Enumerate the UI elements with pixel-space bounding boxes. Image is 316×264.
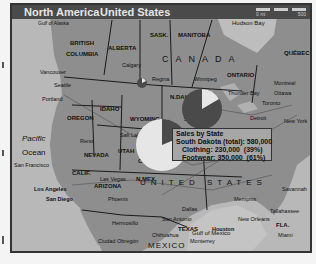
margin-mark bbox=[2, 150, 4, 156]
margin-mark bbox=[2, 62, 4, 68]
svg-text:Winnipeg: Winnipeg bbox=[194, 76, 217, 82]
svg-text:Las Vegas: Las Vegas bbox=[100, 176, 126, 182]
label-sask: SASK. bbox=[150, 32, 169, 38]
margin-mark bbox=[2, 236, 4, 244]
label-ocean: Ocean bbox=[22, 148, 46, 157]
svg-text:Toronto: Toronto bbox=[262, 100, 280, 106]
label-gulf-of-alaska: Gulf of Alaska bbox=[38, 20, 69, 26]
sales-info-tooltip: Sales by State South Dakota (total): 580… bbox=[172, 128, 272, 161]
label-calif: CALIF. bbox=[72, 170, 91, 176]
label-fla: FLA. bbox=[276, 222, 290, 228]
breadcrumb-north-america[interactable]: North America bbox=[24, 6, 99, 18]
label-manitoba: MANITOBA bbox=[178, 32, 211, 38]
svg-text:San Francisco: San Francisco bbox=[14, 162, 49, 168]
tooltip-title: Sales by State bbox=[176, 130, 268, 138]
svg-text:Miami: Miami bbox=[278, 232, 293, 238]
svg-text:Reno: Reno bbox=[80, 138, 93, 144]
svg-text:Tallahassee: Tallahassee bbox=[270, 208, 299, 214]
map-title-bar: North America United States 0 mi 500 bbox=[12, 5, 310, 19]
scale-bar: 0 mi 500 bbox=[256, 7, 306, 17]
svg-text:Thunder Bay: Thunder Bay bbox=[228, 90, 260, 96]
svg-text:Regina: Regina bbox=[152, 76, 170, 82]
label-pacific: Pacific bbox=[22, 134, 46, 143]
label-idaho: IDAHO bbox=[100, 106, 120, 112]
svg-text:San Diego: San Diego bbox=[46, 196, 74, 202]
map-view[interactable]: North America United States 0 mi 500 bbox=[10, 3, 312, 253]
svg-text:Houston: Houston bbox=[212, 226, 235, 232]
label-arizona: ARIZONA bbox=[94, 183, 122, 189]
svg-text:Phoenix: Phoenix bbox=[108, 196, 128, 202]
label-quebec: QUÉBEC bbox=[284, 49, 310, 56]
svg-text:Savannah: Savannah bbox=[282, 186, 307, 192]
tooltip-footwear: Footwear: 350,000 (61%) bbox=[176, 154, 268, 162]
svg-text:Dallas: Dallas bbox=[182, 206, 198, 212]
svg-text:Ciudad Obregón: Ciudad Obregón bbox=[98, 238, 138, 244]
tooltip-clothing: Clothing: 230,000 (39%) bbox=[176, 146, 268, 154]
svg-text:Detroit: Detroit bbox=[250, 115, 267, 121]
svg-text:Los Angeles: Los Angeles bbox=[34, 186, 67, 192]
label-mexico: MEXICO bbox=[148, 241, 186, 250]
label-n-mex: N.MEX. bbox=[136, 176, 157, 182]
svg-text:New Orleans: New Orleans bbox=[238, 216, 270, 222]
svg-text:Hermosillo: Hermosillo bbox=[112, 220, 138, 226]
svg-text:Seattle: Seattle bbox=[54, 82, 71, 88]
breadcrumb-united-states[interactable]: United States bbox=[100, 6, 170, 18]
label-united-states: UNITED STATES bbox=[140, 178, 267, 187]
label-columbia: COLUMBIA bbox=[66, 51, 99, 57]
label-nevada: NEVADA bbox=[84, 152, 110, 158]
label-canada: CANADA bbox=[162, 54, 242, 64]
pie-north-dakota[interactable] bbox=[182, 89, 222, 129]
pie-small[interactable] bbox=[137, 78, 147, 88]
svg-text:San Antonio: San Antonio bbox=[162, 216, 192, 222]
label-ontario: ONTARIO bbox=[227, 72, 255, 78]
svg-text:Memphis: Memphis bbox=[234, 196, 257, 202]
label-hudson-bay: Hudson Bay bbox=[232, 20, 265, 26]
label-oregon: OREGON bbox=[67, 115, 94, 121]
svg-text:Ottawa: Ottawa bbox=[274, 90, 292, 96]
svg-text:Calgary: Calgary bbox=[122, 62, 141, 68]
label-alberta: ALBERTA bbox=[108, 45, 137, 51]
svg-text:New York: New York bbox=[284, 118, 307, 124]
svg-text:Portland: Portland bbox=[42, 96, 63, 102]
tooltip-total: South Dakota (total): 580,000 bbox=[176, 138, 268, 146]
svg-text:Monterrey: Monterrey bbox=[190, 238, 215, 244]
svg-text:Chihuahua: Chihuahua bbox=[152, 232, 180, 238]
label-british: BRITISH bbox=[70, 40, 94, 46]
svg-text:Montréal: Montréal bbox=[274, 80, 295, 86]
svg-text:Vancouver: Vancouver bbox=[40, 69, 66, 75]
label-utah: UTAH bbox=[118, 148, 134, 154]
